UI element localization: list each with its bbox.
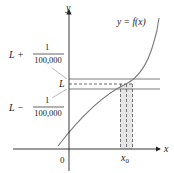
curve-label: y = f(x) [116,17,146,28]
function-curve [58,18,159,146]
upper-bound-prefix: L + [8,49,24,60]
limit-l-label: L [58,78,65,89]
epsilon-band-diagram: y x 0 x0 y = f(x) L L + 1 100,000 L − 1 … [0,0,174,173]
y-axis-label: y [65,2,71,13]
origin-label: 0 [60,155,65,165]
x0-label: x0 [120,152,129,165]
upper-bound-numerator: 1 [45,42,49,52]
upper-bound-denominator: 100,000 [34,55,62,65]
lower-bound-prefix: L − [8,102,24,113]
x-axis-label: x [163,143,169,154]
lower-leader-line [52,89,67,98]
lower-bound-denominator: 100,000 [34,108,62,118]
lower-bound-numerator: 1 [45,95,49,105]
